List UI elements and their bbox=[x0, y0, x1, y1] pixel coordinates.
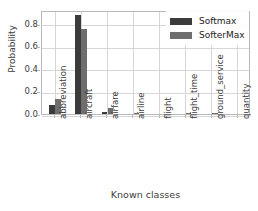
legend-swatch-softermax bbox=[170, 32, 192, 39]
x-axis-tick-label: aircraft bbox=[84, 89, 94, 119]
chart-figure: Probability 0.00.20.40.60.8 Known classe… bbox=[0, 0, 258, 211]
y-axis-tick-label: 0.0 bbox=[2, 110, 38, 119]
x-axis-tick-mark bbox=[237, 115, 238, 118]
bar-softmax-abbreviation bbox=[49, 105, 55, 114]
y-axis-tick-mark bbox=[37, 25, 40, 26]
chart-legend: SoftmaxSofterMax bbox=[166, 11, 249, 45]
x-axis-tick-label: flight bbox=[163, 97, 173, 119]
y-axis-tick-mark bbox=[37, 70, 40, 71]
x-axis-tick-mark bbox=[211, 115, 212, 118]
legend-label: Softmax bbox=[199, 16, 236, 26]
x-axis-tick-mark bbox=[54, 115, 55, 118]
y-axis-tick-mark bbox=[37, 47, 40, 48]
gridline-vertical bbox=[159, 12, 160, 114]
y-axis-tick-labels: 0.00.20.40.60.8 bbox=[0, 0, 38, 211]
y-axis-tick-mark bbox=[37, 92, 40, 93]
x-axis-tick-label: ground_service bbox=[215, 54, 225, 119]
x-axis-tick-label: airfare bbox=[110, 91, 120, 119]
legend-item: SofterMax bbox=[170, 28, 245, 42]
gridline-vertical bbox=[107, 12, 108, 114]
x-axis-tick-mark bbox=[106, 115, 107, 118]
legend-item: Softmax bbox=[170, 14, 245, 28]
legend-label: SofterMax bbox=[199, 30, 245, 40]
x-axis-tick-mark bbox=[159, 115, 160, 118]
x-axis-tick-label: airline bbox=[136, 93, 146, 119]
x-axis-tick-mark bbox=[80, 115, 81, 118]
x-axis-tick-label: quantity bbox=[241, 84, 251, 119]
y-axis-tick-label: 0.4 bbox=[2, 65, 38, 74]
legend-swatch-softmax bbox=[170, 18, 192, 25]
y-axis-tick-label: 0.2 bbox=[2, 87, 38, 96]
gridline-horizontal bbox=[42, 48, 249, 49]
x-axis-tick-mark bbox=[132, 115, 133, 118]
y-axis-tick-label: 0.6 bbox=[2, 42, 38, 51]
gridline-vertical bbox=[133, 12, 134, 114]
bar-softmax-airfare bbox=[102, 112, 108, 114]
y-axis-tick-mark bbox=[37, 115, 40, 116]
x-axis-tick-mark bbox=[185, 115, 186, 118]
y-axis-tick-label: 0.8 bbox=[2, 20, 38, 29]
x-axis-title: Known classes bbox=[41, 189, 250, 200]
x-axis-tick-label: flight_time bbox=[189, 74, 199, 119]
bar-softmax-aircraft bbox=[75, 15, 81, 114]
x-axis-tick-label: abbreviation bbox=[58, 66, 68, 119]
